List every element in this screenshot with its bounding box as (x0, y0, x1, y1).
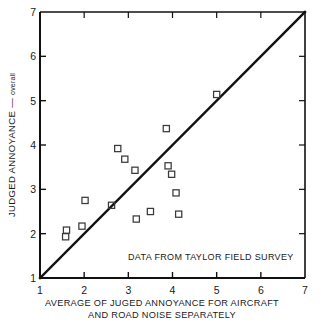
data-point (169, 171, 175, 177)
data-point (173, 190, 179, 196)
data-point (163, 125, 169, 131)
data-point (82, 197, 88, 203)
data-point (132, 167, 138, 173)
data-point (214, 91, 220, 97)
data-point (79, 223, 85, 229)
plot-canvas (0, 0, 324, 331)
data-point (147, 208, 153, 214)
data-point-markers (63, 91, 220, 240)
data-point (165, 163, 171, 169)
data-point (133, 216, 139, 222)
x-axis-title-line1: AVERAGE OF JUGED ANNOYANCE FOR AIRCRAFT (45, 298, 279, 308)
chart-annotation: DATA FROM TAYLOR FIELD SURVEY (128, 252, 294, 262)
scatter-plot-figure: JUDGED ANNOYANCE — overall 1234567 12345… (0, 0, 324, 331)
identity-reference-line (40, 12, 305, 278)
data-point (63, 227, 69, 233)
data-point (63, 234, 69, 240)
data-point (176, 211, 182, 217)
data-point (115, 145, 121, 151)
x-axis-title-line2: AND ROAD NOISE SEPARATELY (16, 309, 308, 321)
identity-line-segment (40, 12, 305, 278)
data-point (122, 156, 128, 162)
x-axis-title: AVERAGE OF JUGED ANNOYANCE FOR AIRCRAFT … (16, 297, 308, 321)
